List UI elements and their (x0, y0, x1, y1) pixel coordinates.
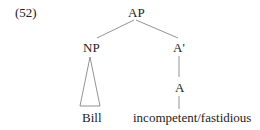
np-triangle (80, 57, 100, 106)
node-np: NP (83, 41, 100, 54)
terminal-adjective: incompetent/fastidious (133, 111, 251, 124)
node-a: A (175, 81, 184, 94)
branch-ap-np (97, 20, 134, 38)
branch-ap-abar (136, 20, 178, 38)
terminal-bill: Bill (82, 111, 102, 124)
node-ap: AP (128, 6, 145, 19)
example-number: (52) (15, 6, 37, 19)
node-abar: A' (173, 41, 185, 54)
